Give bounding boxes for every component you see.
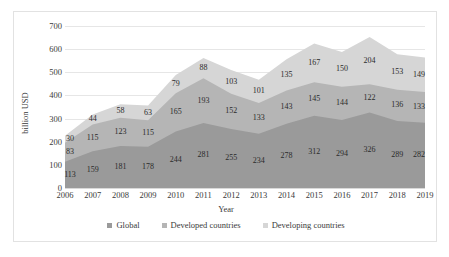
data-label: 143 [281, 103, 293, 111]
data-label: 44 [89, 115, 97, 123]
data-label: 149 [413, 71, 425, 79]
data-label: 152 [225, 107, 237, 115]
data-label: 234 [253, 157, 265, 165]
x-axis-title: Year [14, 204, 438, 214]
data-label: 150 [336, 65, 348, 73]
y-axis-tick: 300 [32, 114, 62, 124]
data-label: 278 [281, 152, 293, 160]
x-axis-tick-labels: 2006200720082009201020112012201320142015… [65, 190, 425, 204]
legend-swatch-icon [162, 223, 167, 228]
data-label: 193 [197, 97, 209, 105]
data-label: 133 [253, 114, 265, 122]
gridline [65, 188, 425, 189]
data-label: 145 [308, 95, 320, 103]
data-labels: 1131591811782442812552342783122943262892… [65, 26, 425, 188]
data-label: 136 [391, 101, 403, 109]
chart-legend: GlobalDeveloped countriesDeveloping coun… [14, 220, 438, 230]
data-label: 165 [170, 108, 182, 116]
data-label: 159 [87, 166, 99, 174]
y-axis-tick: 600 [32, 44, 62, 54]
data-label: 281 [197, 151, 209, 159]
data-label: 113 [64, 171, 76, 179]
data-label: 103 [225, 78, 237, 86]
legend-swatch-icon [107, 223, 112, 228]
data-label: 312 [308, 148, 320, 156]
data-label: 153 [391, 68, 403, 76]
y-axis-tick: 100 [32, 160, 62, 170]
data-label: 133 [413, 103, 425, 111]
data-label: 115 [142, 129, 154, 137]
data-label: 115 [87, 134, 99, 142]
data-label: 294 [336, 150, 348, 158]
data-label: 123 [114, 128, 126, 136]
legend-item[interactable]: Developing countries [263, 220, 345, 230]
data-label: 83 [66, 148, 74, 156]
data-label: 244 [170, 156, 182, 164]
legend-item[interactable]: Developed countries [162, 220, 241, 230]
legend-label: Developing countries [272, 220, 345, 230]
data-label: 63 [144, 109, 152, 117]
y-axis-tick: 500 [32, 67, 62, 77]
data-label: 101 [253, 87, 265, 95]
data-label: 181 [114, 163, 126, 171]
data-label: 326 [364, 146, 376, 154]
data-label: 178 [142, 163, 154, 171]
data-label: 204 [364, 57, 376, 65]
legend-item[interactable]: Global [107, 220, 139, 230]
data-label: 88 [199, 64, 207, 72]
y-axis-tick: 700 [32, 21, 62, 31]
data-label: 122 [364, 94, 376, 102]
plot-area: 1131591811782442812552342783122943262892… [65, 26, 425, 188]
data-label: 144 [336, 99, 348, 107]
data-label: 30 [66, 135, 74, 143]
data-label: 79 [172, 80, 180, 88]
y-axis-tick: 400 [32, 90, 62, 100]
data-label: 135 [281, 71, 293, 79]
legend-label: Global [116, 220, 139, 230]
chart-container: billion USD 0100200300400500600700 11315… [13, 11, 437, 242]
legend-swatch-icon [263, 223, 268, 228]
y-axis-tick: 200 [32, 137, 62, 147]
data-label: 58 [116, 107, 124, 115]
x-axis-tick: 2019 [407, 190, 443, 200]
data-label: 167 [308, 59, 320, 67]
data-label: 289 [391, 151, 403, 159]
data-label: 255 [225, 154, 237, 162]
y-axis-tick-labels: 0100200300400500600700 [28, 26, 62, 188]
data-label: 282 [413, 151, 425, 159]
legend-label: Developed countries [171, 220, 241, 230]
